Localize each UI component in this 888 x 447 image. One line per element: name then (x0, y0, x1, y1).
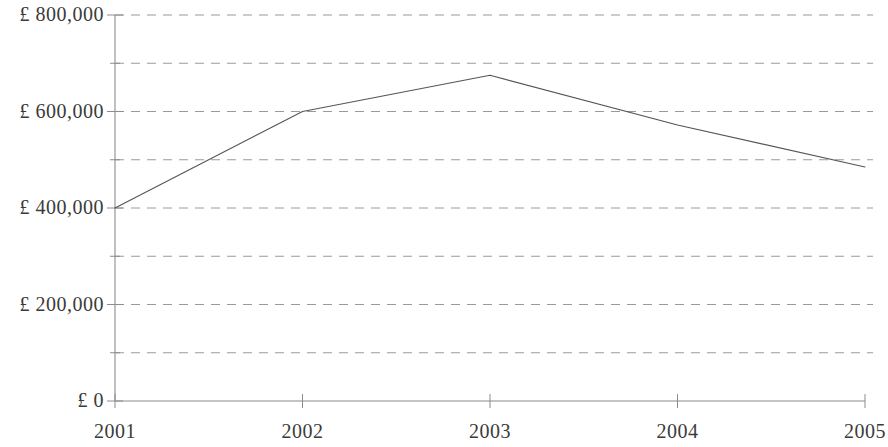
x-axis-tick-label: 2001 (94, 421, 136, 441)
x-axis-labels: 20012002200320042005 (0, 0, 888, 447)
x-axis-tick-label: 2005 (844, 421, 886, 441)
line-chart: £ 800,000£ 600,000£ 400,000£ 200,000£ 0 … (0, 0, 888, 447)
x-axis-tick-label: 2003 (469, 421, 511, 441)
x-axis-tick-label: 2004 (657, 421, 699, 441)
x-axis-tick-label: 2002 (282, 421, 324, 441)
